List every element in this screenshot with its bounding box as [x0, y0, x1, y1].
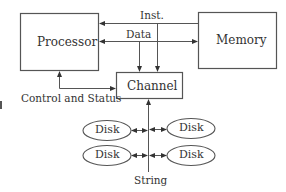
disk-top-left-label: Disk	[95, 124, 120, 135]
disk-bottom-left-label: Disk	[95, 149, 120, 160]
string-label: String	[134, 175, 167, 186]
channel-label: Channel	[127, 80, 177, 92]
disk-bottom-right-label: Disk	[179, 149, 204, 160]
memory-label: Memory	[216, 34, 267, 46]
processor-label: Processor	[37, 36, 97, 48]
data-label: Data	[126, 29, 151, 40]
disk-top-right-label: Disk	[179, 122, 204, 133]
diagram-canvas: Processor Memory Channel Inst. Data Cont…	[0, 0, 286, 192]
control-status-line	[60, 72, 116, 89]
control-status-label: Control and Status	[21, 93, 122, 104]
inst-label: Inst.	[140, 10, 164, 21]
edge-artifact	[0, 101, 2, 109]
